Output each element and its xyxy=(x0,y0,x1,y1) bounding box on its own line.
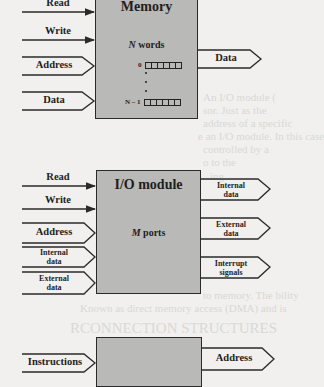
label-line: External xyxy=(22,274,86,283)
cpu-instructions-label: Instructions xyxy=(22,356,88,367)
label-line: data xyxy=(201,229,261,238)
io-interrupt-signals-label: Interrupt signals xyxy=(201,259,261,277)
label-line: signals xyxy=(201,268,261,277)
io-address-label: Address xyxy=(22,226,86,237)
memory-write-label: Write xyxy=(22,25,94,36)
cpu-address-label: Address xyxy=(202,352,266,363)
label-line: Interrupt xyxy=(201,259,261,268)
io-read-label: Read xyxy=(22,171,94,182)
label-line: Internal xyxy=(201,181,261,190)
label-line: External xyxy=(201,220,261,229)
memory-data-out-label: Data xyxy=(198,52,254,63)
memory-data-in-label: Data xyxy=(22,94,86,105)
label-line: data xyxy=(22,283,86,292)
io-external-data-in-label: External data xyxy=(22,274,86,292)
memory-read-label: Read xyxy=(22,0,94,8)
io-write-label: Write xyxy=(22,194,94,205)
io-internal-data-in-label: Internal data xyxy=(22,248,86,266)
label-line: Internal xyxy=(22,248,86,257)
io-internal-data-out-label: Internal data xyxy=(201,181,261,199)
memory-address-label: Address xyxy=(22,59,86,70)
label-line: data xyxy=(201,190,261,199)
label-line: data xyxy=(22,257,86,266)
io-external-data-out-label: External data xyxy=(201,220,261,238)
